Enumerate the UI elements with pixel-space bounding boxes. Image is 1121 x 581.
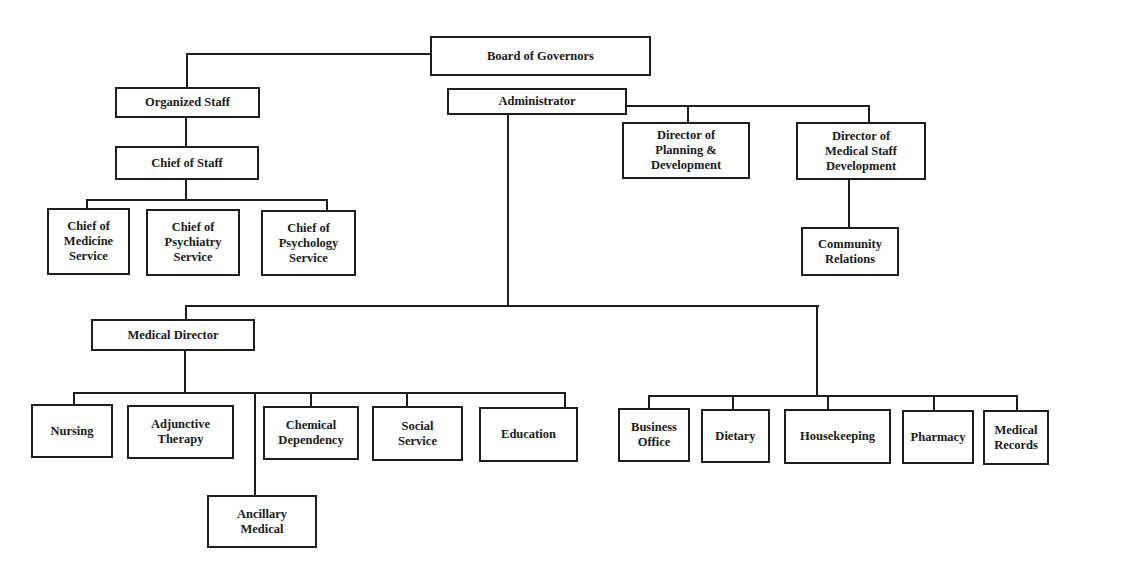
node-housekeeping: Housekeeping: [784, 409, 891, 464]
connector-dir-med-staff: [868, 105, 870, 123]
connector-clinical-bus: [73, 392, 566, 394]
node-label: Nursing: [50, 424, 93, 439]
node-label: Chief of Medicine Service: [64, 219, 113, 264]
connector-chemical: [310, 393, 312, 407]
connector-housekeeping: [827, 395, 829, 410]
node-label: Board of Governors: [487, 49, 594, 64]
connector-admin-directors-bus: [625, 105, 870, 107]
node-organized-staff: Organized Staff: [115, 87, 260, 118]
connector-admin-down: [507, 113, 509, 307]
node-medical-director: Medical Director: [91, 319, 255, 351]
connector-education: [564, 393, 566, 408]
node-label: Chief of Staff: [151, 156, 223, 171]
node-board-of-governors: Board of Governors: [430, 36, 651, 76]
node-chemical-dependency: Chemical Dependency: [263, 406, 359, 460]
connector-med-dir-down: [184, 349, 186, 394]
connector-community-relations: [848, 178, 850, 228]
node-pharmacy: Pharmacy: [902, 410, 974, 464]
node-chief-psychiatry-service: Chief of Psychiatry Service: [146, 209, 240, 276]
node-social-service: Social Service: [372, 406, 463, 461]
node-director-medical-staff-development: Director of Medical Staff Development: [796, 122, 926, 180]
node-medical-records: Medical Records: [983, 410, 1049, 465]
node-label: Medical Director: [127, 328, 218, 343]
node-ancillary-medical: Ancillary Medical: [207, 495, 317, 548]
connector-pharmacy: [933, 396, 935, 411]
connector-support-services-down: [816, 305, 818, 397]
node-label: Housekeeping: [800, 429, 875, 444]
node-label: Director of Planning & Development: [651, 128, 721, 173]
node-education: Education: [479, 407, 578, 462]
connector-business-office: [648, 395, 650, 409]
connector-support-bus: [648, 395, 1018, 397]
node-label: Chief of Psychiatry Service: [165, 220, 222, 265]
node-administrator: Administrator: [447, 88, 627, 115]
node-label: Organized Staff: [145, 95, 230, 110]
node-label: Administrator: [498, 94, 575, 109]
node-chief-medicine-service: Chief of Medicine Service: [47, 208, 130, 275]
node-label: Community Relations: [818, 237, 882, 267]
connector-medical-director: [185, 305, 187, 320]
node-label: Chief of Psychology Service: [279, 221, 339, 266]
connector-admin-main-bus: [185, 305, 819, 307]
connector-dietary: [732, 395, 734, 410]
figure-caption-cropped: [22, 574, 1102, 581]
connector-medical-records: [1016, 396, 1018, 411]
node-dietary: Dietary: [701, 409, 770, 463]
node-community-relations: Community Relations: [801, 227, 899, 276]
node-label: Ancillary Medical: [237, 507, 287, 537]
node-business-office: Business Office: [618, 408, 690, 462]
node-director-planning-development: Director of Planning & Development: [622, 122, 750, 179]
connector-dir-planning: [687, 105, 689, 123]
connector-organized-to-chief: [185, 116, 187, 147]
node-label: Adjunctive Therapy: [151, 417, 210, 447]
connector-social: [406, 393, 408, 407]
connector-chiefs-bus: [86, 199, 328, 201]
connector-organized-staff-drop: [186, 53, 188, 88]
connector-chief-of-staff-down: [185, 178, 187, 201]
node-label: Social Service: [398, 419, 437, 449]
connector-ancillary: [254, 393, 256, 496]
node-label: Medical Records: [994, 423, 1038, 453]
node-label: Education: [501, 427, 556, 442]
node-adjunctive-therapy: Adjunctive Therapy: [127, 405, 234, 459]
node-label: Business Office: [631, 420, 677, 450]
node-label: Director of Medical Staff Development: [825, 129, 897, 174]
node-label: Pharmacy: [911, 430, 966, 445]
node-chief-psychology-service: Chief of Psychology Service: [261, 210, 356, 276]
node-chief-of-staff: Chief of Staff: [115, 146, 259, 180]
node-label: Dietary: [715, 429, 755, 444]
connector-board-to-organized-staff: [186, 53, 431, 55]
node-nursing: Nursing: [31, 404, 113, 458]
org-chart: Board of Governors Organized Staff Admin…: [0, 0, 1121, 581]
node-label: Chemical Dependency: [278, 418, 343, 448]
